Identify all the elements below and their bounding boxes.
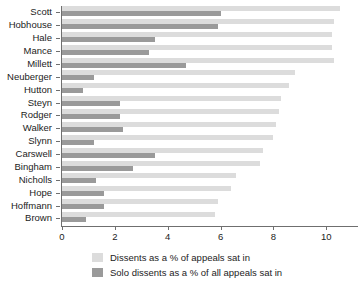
bar-solo-dissents: [62, 24, 218, 29]
bar-group: [62, 161, 358, 174]
bar-group: [62, 135, 358, 148]
category-axis-row: Rodger: [0, 109, 56, 122]
category-axis-tick: [56, 12, 60, 13]
category-axis-row: Steyn: [0, 96, 56, 109]
value-axis-tick: [115, 226, 116, 230]
category-axis-label: Hutton: [24, 85, 52, 95]
bar-group: [62, 148, 358, 161]
category-axis-label: Steyn: [28, 98, 52, 108]
category-axis-row: Carswell: [0, 148, 56, 161]
bar-group: [62, 186, 358, 199]
category-axis-row: Hutton: [0, 83, 56, 96]
category-axis-tick: [56, 25, 60, 26]
value-axis-tick: [168, 226, 169, 230]
category-axis-row: Scott: [0, 6, 56, 19]
value-axis-tick-label: 2: [112, 231, 117, 242]
legend-item: Dissents as a % of appeals sat in: [92, 250, 352, 265]
bar-solo-dissents: [62, 50, 149, 55]
value-axis-tick: [273, 226, 274, 230]
bar-group: [62, 212, 358, 225]
legend-label: Dissents as a % of appeals sat in: [110, 252, 250, 263]
legend-label: Solo dissents as a % of all appeals sat …: [110, 267, 282, 278]
category-axis-tick: [56, 128, 60, 129]
category-axis-row: Slynn: [0, 135, 56, 148]
bar-total-dissents: [62, 135, 273, 140]
dissents-bar-chart: ScottHobhouseHaleManceMillettNeubergerHu…: [0, 0, 363, 291]
category-axis-label: Hobhouse: [9, 20, 52, 30]
bar-solo-dissents: [62, 166, 133, 171]
bar-solo-dissents: [62, 114, 120, 119]
bar-solo-dissents: [62, 11, 221, 16]
category-axis-label: Walker: [23, 123, 52, 133]
bar-group: [62, 45, 358, 58]
bar-group: [62, 173, 358, 186]
bar-solo-dissents: [62, 153, 155, 158]
category-axis-tick: [56, 64, 60, 65]
value-axis: 0246810: [62, 226, 358, 246]
category-axis-tick: [56, 218, 60, 219]
category-axis-tick: [56, 193, 60, 194]
category-axis-tick: [56, 115, 60, 116]
bar-group: [62, 6, 358, 19]
bar-solo-dissents: [62, 75, 94, 80]
category-axis-tick: [56, 180, 60, 181]
category-axis-row: Hobhouse: [0, 19, 56, 32]
category-axis-label: Slynn: [28, 136, 52, 146]
bar-group: [62, 58, 358, 71]
chart-legend: Dissents as a % of appeals sat inSolo di…: [92, 250, 352, 280]
bar-solo-dissents: [62, 191, 104, 196]
bar-total-dissents: [62, 83, 289, 88]
category-axis-tick: [56, 51, 60, 52]
category-axis-label: Hale: [32, 33, 52, 43]
category-axis-tick: [56, 206, 60, 207]
category-axis-row: Millett: [0, 58, 56, 71]
plot-area: [62, 6, 358, 225]
value-axis-tick: [221, 226, 222, 230]
value-axis-tick-label: 0: [59, 231, 64, 242]
bar-total-dissents: [62, 70, 295, 75]
category-axis-row: Hope: [0, 186, 56, 199]
category-axis-label: Neuberger: [7, 72, 52, 82]
category-axis-row: Hoffmann: [0, 199, 56, 212]
category-axis-label: Bingham: [15, 162, 53, 172]
value-axis-tick: [326, 226, 327, 230]
bar-solo-dissents: [62, 217, 86, 222]
bar-solo-dissents: [62, 37, 155, 42]
bar-solo-dissents: [62, 63, 186, 68]
bar-group: [62, 109, 358, 122]
bar-group: [62, 83, 358, 96]
category-axis-label: Millett: [27, 59, 52, 69]
category-axis-row: Neuberger: [0, 70, 56, 83]
value-axis-tick-label: 10: [321, 231, 332, 242]
value-axis-tick-label: 4: [165, 231, 170, 242]
bar-group: [62, 32, 358, 45]
category-axis-tick: [56, 141, 60, 142]
category-axis-tick: [56, 103, 60, 104]
bar-solo-dissents: [62, 140, 94, 145]
bar-solo-dissents: [62, 127, 123, 132]
category-axis-row: Brown: [0, 212, 56, 225]
category-axis-tick: [56, 167, 60, 168]
category-axis-row: Nicholls: [0, 173, 56, 186]
value-axis-tick-label: 6: [218, 231, 223, 242]
bar-solo-dissents: [62, 101, 120, 106]
legend-item: Solo dissents as a % of all appeals sat …: [92, 265, 352, 280]
category-axis-row: Bingham: [0, 161, 56, 174]
bar-solo-dissents: [62, 204, 104, 209]
bar-group: [62, 122, 358, 135]
category-axis-tick: [56, 77, 60, 78]
bar-group: [62, 199, 358, 212]
category-axis: ScottHobhouseHaleManceMillettNeubergerHu…: [0, 6, 56, 225]
category-axis-tick: [56, 90, 60, 91]
category-axis-label: Rodger: [21, 110, 52, 120]
bar-group: [62, 19, 358, 32]
category-axis-tick: [56, 154, 60, 155]
bar-solo-dissents: [62, 88, 83, 93]
category-axis-label: Carswell: [16, 149, 52, 159]
category-axis-tick: [56, 38, 60, 39]
category-axis-label: Mance: [23, 46, 52, 56]
category-axis-label: Scott: [30, 7, 52, 17]
legend-swatch-icon: [92, 268, 103, 277]
category-axis-label: Nicholls: [19, 175, 52, 185]
category-axis-row: Hale: [0, 32, 56, 45]
